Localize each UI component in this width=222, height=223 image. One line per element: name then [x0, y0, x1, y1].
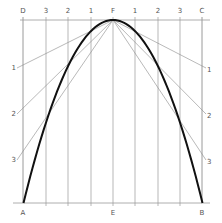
top-point-label: F: [111, 7, 115, 15]
point-labels: D321F123CAEB123123: [12, 7, 212, 217]
bottom-point-label: B: [200, 209, 205, 217]
grid-lines: [13, 17, 210, 206]
bottom-point-label: E: [111, 209, 115, 217]
bottom-point-label: A: [21, 209, 26, 217]
ray-right: [113, 20, 206, 68]
right-side-label: 2: [207, 112, 211, 120]
right-side-label: 1: [207, 66, 211, 74]
ray-right: [113, 20, 206, 114]
construction-rays: [17, 20, 206, 160]
ray-left: [17, 20, 113, 160]
top-point-label: 2: [156, 7, 160, 15]
top-point-label: 3: [178, 7, 182, 15]
top-point-label: 2: [66, 7, 70, 15]
parabola-construction-diagram: D321F123CAEB123123: [0, 0, 222, 223]
top-point-label: 3: [44, 7, 48, 15]
ray-right: [113, 20, 206, 160]
left-side-label: 3: [12, 156, 16, 164]
left-side-label: 1: [12, 64, 16, 72]
top-point-label: 1: [89, 7, 93, 15]
right-side-label: 3: [207, 158, 211, 166]
ray-left: [17, 20, 113, 114]
left-side-label: 2: [12, 110, 16, 118]
top-point-label: D: [20, 7, 25, 15]
figure-caption-cropped: [0, 219, 222, 223]
top-point-label: C: [200, 7, 205, 15]
top-point-label: 1: [133, 7, 137, 15]
ray-left: [17, 20, 113, 68]
